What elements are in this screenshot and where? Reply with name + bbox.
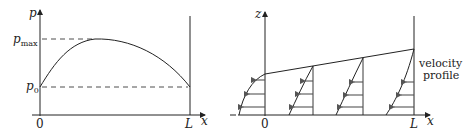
l-label: L <box>184 117 193 131</box>
p0-label: p0 <box>26 79 39 95</box>
y-axis-label: p <box>29 6 37 20</box>
pmax-label: pmax <box>13 32 38 48</box>
x-axis-label-right: x <box>427 114 434 128</box>
l-label-right: L <box>409 117 418 131</box>
x-axis-label: x <box>201 114 208 128</box>
velocity-profile-2 <box>289 66 313 115</box>
diagram-canvas: p pmax p0 0 L x <box>0 0 469 137</box>
pressure-curve <box>40 39 190 87</box>
velocity-profile-diagram: z 0 L x velocity profile <box>238 7 463 131</box>
free-surface-line <box>265 49 414 74</box>
velocity-profile-annotation-line2: profile <box>423 69 459 82</box>
origin-label-right: 0 <box>261 117 269 131</box>
velocity-arrows <box>243 80 414 107</box>
z-axis-label: z <box>254 7 262 21</box>
origin-label: 0 <box>36 117 44 131</box>
pressure-plot: p pmax p0 0 L x <box>13 6 236 131</box>
